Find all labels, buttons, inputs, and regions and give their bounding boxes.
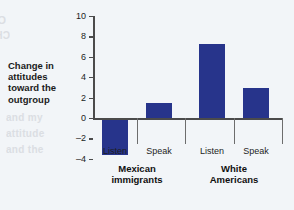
chart-canvas: COMMUNITY CHANGED and my attitude and th…: [0, 0, 294, 210]
y-tick-mark: [89, 118, 93, 119]
y-tick-mark: [89, 159, 93, 160]
y-tick-mark: [89, 77, 93, 78]
group-label-line: immigrants: [111, 174, 162, 185]
bar: [199, 44, 225, 118]
group-divider-tick: [137, 118, 138, 144]
x-tick-label: Listen: [200, 146, 224, 156]
ghost-artifact-text: and my: [6, 112, 43, 123]
y-tick-label: 0: [81, 114, 86, 123]
group-divider-tick: [185, 118, 186, 144]
y-tick-mark: [89, 138, 93, 139]
ghost-artifact-text: COMMUNITY: [0, 14, 6, 26]
ghost-artifact-text: and the: [6, 144, 44, 155]
y-tick-label: 4: [81, 73, 86, 82]
y-tick-mark: [89, 98, 93, 99]
group-label-line: Americans: [210, 174, 259, 185]
y-tick-label: 6: [81, 52, 86, 61]
bar: [146, 103, 172, 118]
x-tick-label: Listen: [103, 146, 127, 156]
ghost-artifact-text: attitude: [6, 128, 45, 139]
y-tick-mark: [89, 16, 93, 17]
y-tick-mark: [89, 57, 93, 58]
ghost-artifact-text: CHANGED: [0, 30, 10, 41]
group-label: Mexicanimmigrants: [111, 163, 162, 185]
group-label-line: Mexican: [111, 163, 162, 174]
y-tick-label: –2: [76, 134, 86, 143]
x-tick-label: Speak: [243, 146, 269, 156]
plot-area: 1086420–2–4: [93, 16, 283, 124]
group-label: WhiteAmericans: [210, 163, 259, 185]
y-tick-label: 10: [76, 12, 86, 21]
y-axis-line: [93, 16, 95, 120]
group-divider-tick: [282, 118, 283, 144]
x-tick-label: Speak: [146, 146, 172, 156]
y-tick-label: –4: [76, 154, 86, 163]
y-axis-label: Change in attitudes toward the outgroup: [8, 60, 78, 105]
bar: [243, 88, 269, 118]
y-tick-label: 2: [81, 93, 86, 102]
y-tick-label: 8: [81, 32, 86, 41]
y-tick-mark: [89, 36, 93, 37]
group-divider-tick: [234, 118, 235, 144]
group-label-line: White: [210, 163, 259, 174]
